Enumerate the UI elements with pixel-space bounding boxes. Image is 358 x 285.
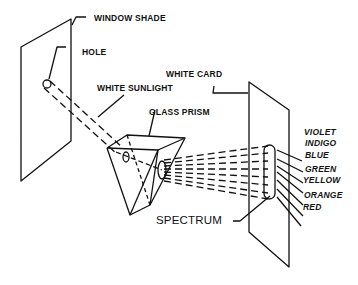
dispersed-rays xyxy=(164,146,268,199)
color-label-yellow: YELLOW xyxy=(303,176,341,185)
white-sunlight-label: WHITE SUNLIGHT xyxy=(97,84,173,93)
glass-prism-label: GLASS PRISM xyxy=(149,108,210,117)
color-label-indigo: INDIGO xyxy=(305,139,336,148)
diagram-canvas: WINDOW SHADE HOLE WHITE SUNLIGHT WHITE C… xyxy=(0,0,358,285)
window-shade-shape xyxy=(21,19,71,181)
spectrum-label: SPECTRUM xyxy=(156,215,222,227)
color-label-red: RED xyxy=(303,203,322,212)
glass-prism-shape xyxy=(107,135,185,215)
hole-label: HOLE xyxy=(82,48,106,57)
hole-shape xyxy=(43,80,51,88)
window-shade-label: WINDOW SHADE xyxy=(94,14,166,23)
color-label-violet: VIOLET xyxy=(304,128,336,137)
white-card-label: WHITE CARD xyxy=(166,70,222,79)
color-label-orange: ORANGE xyxy=(304,191,343,200)
white-card-shape xyxy=(249,82,289,267)
color-label-green: GREEN xyxy=(305,165,336,174)
color-label-blue: BLUE xyxy=(305,151,329,160)
